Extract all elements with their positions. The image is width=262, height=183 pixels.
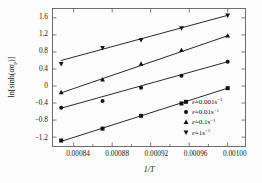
y-tick-label-5: −0.4 [35, 98, 49, 107]
y-tick-label-0: 1.6 [39, 12, 48, 21]
data-point-3-2 [139, 38, 144, 42]
data-point-2-4 [225, 33, 230, 37]
legend-marker-2 [184, 120, 189, 124]
legend-label-2: ε̇=0.1s−1 [192, 118, 216, 127]
legend-value-2: =0.1s [195, 118, 211, 126]
data-point-0-1 [101, 127, 105, 131]
legend-marker-3 [184, 131, 189, 135]
y-axis-tick-labels: 1.6 1.2 0.8 0.4 0 −0.4 −0.8 −1.2 [35, 12, 49, 142]
y-tick-label-4: 0 [44, 81, 48, 90]
legend-marker-0 [184, 100, 188, 104]
legend-exponent-2: −1 [210, 118, 216, 123]
data-point-0-2 [139, 114, 143, 118]
data-point-1-3 [179, 74, 183, 78]
legend-label-1: ε̇=0.01s−1 [192, 108, 220, 117]
x-tick-label-3: 0.00096 [184, 149, 208, 158]
x-tick-label-1: 0.00088 [105, 149, 129, 158]
chart-legend: ε̇=0.001s−1ε̇=0.01s−1ε̇=0.1s−1ε̇=1s−1 [184, 97, 223, 136]
x-axis-title: 1/T [144, 165, 155, 174]
y-tick-label-3: 0.4 [39, 64, 48, 73]
x-tick-label-2: 0.00092 [145, 149, 169, 158]
chart-svg: 0.00084 0.00088 0.00092 0.00096 0.00100 … [0, 0, 262, 183]
data-point-0-4 [226, 86, 230, 90]
data-point-3-0 [59, 62, 64, 66]
data-point-2-2 [139, 61, 144, 65]
y-axis-title: ln[sinh(ασp)] [7, 56, 17, 97]
y-axis-title-suffix: )] [7, 56, 16, 62]
data-point-1-4 [226, 60, 230, 64]
x-axis-tick-labels: 0.00084 0.00088 0.00092 0.00096 0.00100 [66, 149, 247, 158]
data-point-1-2 [139, 86, 143, 90]
x-tick-label-4: 0.00100 [223, 149, 247, 158]
data-point-1-0 [59, 106, 63, 110]
legend-exponent-1: −1 [214, 108, 220, 113]
figure-container: 0.00084 0.00088 0.00092 0.00096 0.00100 … [0, 0, 262, 183]
legend-value-0: =0.001s [195, 98, 218, 106]
y-tick-label-7: −1.2 [35, 133, 49, 142]
x-tick-label-0: 0.00084 [66, 149, 90, 158]
trend-line-2 [61, 36, 228, 93]
legend-exponent-0: −1 [217, 97, 223, 102]
legend-label-3: ε̇=1s−1 [192, 128, 211, 137]
data-point-0-3 [179, 101, 183, 105]
trend-line-3 [61, 15, 228, 60]
series-3 [59, 14, 230, 67]
y-axis-ticks [53, 18, 246, 137]
data-point-0-0 [59, 139, 63, 143]
legend-label-0: ε̇=0.001s−1 [192, 97, 223, 106]
plot-frame [53, 9, 246, 147]
legend-value-3: =1s [195, 129, 205, 137]
y-tick-label-6: −0.8 [35, 115, 49, 124]
legend-exponent-3: −1 [205, 128, 211, 133]
y-tick-label-2: 0.8 [39, 46, 48, 55]
y-axis-title-prefix: ln[sinh( [7, 72, 16, 97]
legend-value-1: =0.01s [195, 108, 214, 116]
data-point-1-1 [101, 99, 105, 103]
legend-marker-1 [184, 110, 188, 114]
y-tick-label-1: 1.2 [39, 29, 48, 38]
data-point-2-3 [179, 48, 184, 52]
